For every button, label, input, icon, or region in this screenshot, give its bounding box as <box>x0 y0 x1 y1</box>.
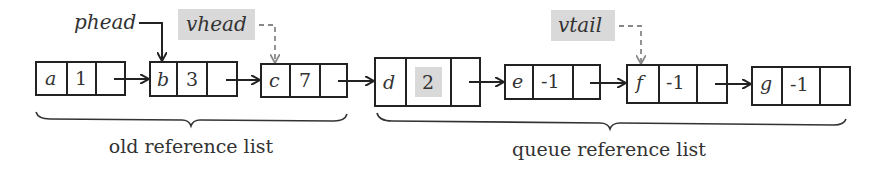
node-b-id: b <box>157 68 169 90</box>
old-list-brace-icon <box>36 112 347 126</box>
node-g: g -1 <box>752 67 850 105</box>
node-g-id: g <box>760 72 772 94</box>
phead-label: phead <box>74 10 136 34</box>
vtail-pointer: vtail <box>551 10 641 63</box>
node-b-value: 3 <box>186 68 198 90</box>
node-b: b 3 <box>150 62 237 96</box>
queue-list-label: queue reference list <box>512 138 706 160</box>
node-c-value: 7 <box>299 69 311 91</box>
node-e-id: e <box>512 70 523 92</box>
phead-arrow-icon <box>139 23 162 60</box>
node-a-value: 1 <box>75 67 87 89</box>
queue-list-brace-icon <box>377 113 846 129</box>
linked-list-diagram: phead vhead vtail a 1 b 3 c 7 <box>0 0 877 172</box>
old-list-label: old reference list <box>109 135 274 157</box>
queue-list-group: queue reference list <box>377 113 846 160</box>
node-a: a 1 <box>36 62 125 95</box>
node-d-id: d <box>383 71 395 93</box>
node-g-value: -1 <box>790 73 809 95</box>
node-c: c 7 <box>261 64 347 97</box>
node-d-value: 2 <box>422 71 434 93</box>
node-f: f -1 <box>627 65 727 103</box>
node-f-value: -1 <box>666 71 685 93</box>
vhead-arrow-icon <box>259 25 275 62</box>
node-e-value: -1 <box>541 70 560 92</box>
node-d: d 2 <box>375 58 480 106</box>
node-e: e -1 <box>505 65 600 99</box>
vhead-label: vhead <box>186 12 247 36</box>
phead-pointer: phead <box>74 10 162 60</box>
vhead-pointer: vhead <box>178 9 275 62</box>
vtail-label: vtail <box>558 13 602 37</box>
node-c-id: c <box>269 69 280 91</box>
vtail-arrow-icon <box>619 26 641 63</box>
node-a-id: a <box>45 67 56 89</box>
old-list-group: old reference list <box>36 112 347 157</box>
